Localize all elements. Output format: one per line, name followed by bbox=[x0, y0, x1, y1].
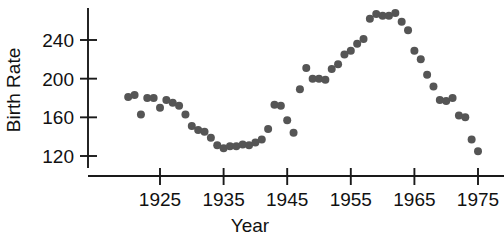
data-point bbox=[277, 102, 285, 110]
data-point bbox=[449, 94, 457, 102]
data-point bbox=[175, 102, 183, 110]
data-point bbox=[258, 136, 266, 144]
birth-rate-scatter-figure: 120160200240 192519351945195519651975 Bi… bbox=[0, 0, 504, 240]
x-axis-tick-labels: 192519351945195519651975 bbox=[139, 189, 499, 210]
data-point bbox=[417, 55, 425, 63]
x-tick-label-1925: 1925 bbox=[139, 189, 181, 210]
data-point bbox=[391, 9, 399, 17]
data-point bbox=[423, 71, 431, 79]
y-tick-label-160: 160 bbox=[42, 107, 74, 128]
data-point bbox=[410, 47, 418, 55]
chart-canvas: 120160200240 192519351945195519651975 Bi… bbox=[0, 0, 504, 240]
x-tick-label-1955: 1955 bbox=[330, 189, 372, 210]
data-point bbox=[328, 65, 336, 73]
y-axis-tick-labels: 120160200240 bbox=[42, 30, 74, 167]
y-tick-label-200: 200 bbox=[42, 69, 74, 90]
data-point bbox=[181, 110, 189, 118]
data-point bbox=[290, 129, 298, 137]
x-axis-title: Year bbox=[231, 215, 270, 236]
x-tick-label-1935: 1935 bbox=[202, 189, 244, 210]
y-tick-label-240: 240 bbox=[42, 30, 74, 51]
data-point bbox=[201, 128, 209, 136]
data-point bbox=[353, 40, 361, 48]
y-axis-title: Birth Rate bbox=[3, 48, 24, 132]
data-point bbox=[347, 47, 355, 55]
data-point bbox=[283, 116, 291, 124]
data-point bbox=[302, 64, 310, 72]
x-tick-label-1965: 1965 bbox=[393, 189, 435, 210]
data-point bbox=[156, 104, 164, 112]
data-point bbox=[137, 110, 145, 118]
data-point bbox=[207, 134, 215, 142]
data-point bbox=[131, 91, 139, 99]
data-point bbox=[366, 15, 374, 23]
data-point bbox=[296, 85, 304, 93]
data-point bbox=[474, 147, 482, 155]
data-point bbox=[264, 125, 272, 133]
data-point bbox=[468, 136, 476, 144]
data-point bbox=[150, 94, 158, 102]
data-points bbox=[124, 9, 482, 155]
y-tick-label-120: 120 bbox=[42, 146, 74, 167]
data-point bbox=[398, 18, 406, 26]
data-point bbox=[360, 35, 368, 43]
data-point bbox=[461, 113, 469, 121]
data-point bbox=[404, 26, 412, 34]
data-point bbox=[321, 76, 329, 84]
x-tick-label-1975: 1975 bbox=[457, 189, 499, 210]
data-point bbox=[429, 82, 437, 90]
data-point bbox=[334, 60, 342, 68]
axes bbox=[88, 8, 504, 176]
x-tick-label-1945: 1945 bbox=[266, 189, 308, 210]
